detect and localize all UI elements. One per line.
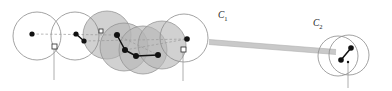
point-p6 (133, 53, 139, 59)
cluster-label-c1-subscript: 1 (224, 15, 227, 22)
connecting-bar-group (209, 40, 336, 55)
point-p8 (184, 36, 190, 42)
cluster-label-c1: C1 (218, 10, 228, 22)
disk-c2-b (318, 36, 358, 76)
cluster-labels-group: C1C2 (218, 10, 323, 30)
disk-c1-g (160, 14, 208, 62)
cluster-c2-disks-group (318, 35, 369, 76)
marker-m3 (181, 47, 186, 52)
point-c2b (338, 57, 344, 63)
point-p5 (122, 47, 128, 53)
point-c2a (348, 45, 354, 51)
point-p4 (114, 32, 120, 38)
disk-cluster-figure: C1C2 (0, 0, 392, 91)
cluster-label-c2: C2 (313, 18, 323, 30)
figure-container: C1C2 (0, 0, 392, 91)
point-tiny (347, 61, 349, 63)
cluster-label-c2-subscript: 2 (319, 23, 322, 30)
disk-c2-a (329, 35, 369, 75)
point-p3 (81, 38, 86, 43)
connecting-bar (209, 42, 336, 52)
marker-m1 (52, 44, 57, 49)
segment-s4 (136, 55, 158, 56)
marker-m2 (99, 29, 103, 33)
point-p2 (73, 31, 78, 36)
point-p1 (29, 31, 34, 36)
point-p7 (155, 52, 161, 58)
